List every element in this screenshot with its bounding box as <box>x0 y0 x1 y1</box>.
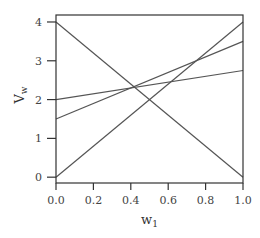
series-line-c <box>56 41 243 119</box>
x-tick-label: 0.0 <box>47 194 65 207</box>
chart: 0.00.20.40.60.81.0 01234 w1 Vw <box>0 0 260 238</box>
y-tick-label: 0 <box>35 171 42 184</box>
y-axis-ticks: 01234 <box>35 16 56 184</box>
y-tick-label: 4 <box>35 16 42 29</box>
x-tick-label: 1.0 <box>234 194 252 207</box>
series-lines <box>56 22 243 177</box>
x-tick-label: 0.8 <box>197 194 215 207</box>
y-tick-label: 2 <box>35 94 42 107</box>
y-tick-label: 3 <box>35 55 42 68</box>
x-tick-label: 0.2 <box>85 194 103 207</box>
x-tick-label: 0.6 <box>159 194 177 207</box>
x-tick-label: 0.4 <box>122 194 140 207</box>
y-axis-label: Vw <box>12 86 29 104</box>
x-axis-ticks: 0.00.20.40.60.81.0 <box>47 183 252 207</box>
x-axis-label: w1 <box>141 212 158 229</box>
series-line-d <box>56 70 243 99</box>
y-tick-label: 1 <box>35 132 42 145</box>
